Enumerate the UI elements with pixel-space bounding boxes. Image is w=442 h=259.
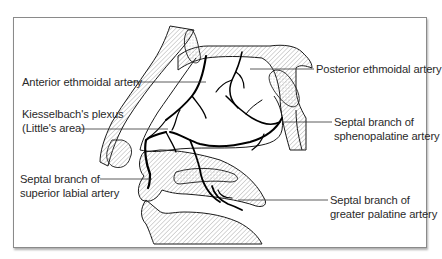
nasal-tip xyxy=(107,140,132,168)
label-greater-palatine-artery: Septal branch of greater palatine artery xyxy=(330,193,437,221)
label-anterior-ethmoidal-artery: Anterior ethmoidal artery xyxy=(22,75,142,89)
label-posterior-ethmoidal-artery: Posterior ethmoidal artery xyxy=(316,62,442,76)
label-superior-labial-artery: Septal branch of superior labial artery xyxy=(20,172,119,200)
label-line: Anterior ethmoidal artery xyxy=(22,75,142,89)
label-line: Septal branch of xyxy=(330,193,437,207)
palate xyxy=(138,150,265,244)
label-sphenopalatine-artery: Septal branch of sphenopalatine artery xyxy=(334,115,440,143)
label-line: Septal branch of xyxy=(20,172,119,186)
label-line: Posterior ethmoidal artery xyxy=(316,62,442,76)
label-line: sphenopalatine artery xyxy=(334,129,440,143)
label-line: Kiesselbach's plexus xyxy=(22,107,124,121)
label-line: superior labial artery xyxy=(20,186,119,200)
label-line: Septal branch of xyxy=(334,115,440,129)
label-kiesselbach-plexus: Kiesselbach's plexus (Little's area) xyxy=(22,107,124,135)
label-line: (Little's area) xyxy=(22,121,124,135)
label-line: greater palatine artery xyxy=(330,207,437,221)
